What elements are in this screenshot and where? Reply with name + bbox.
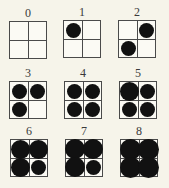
- cell-grid: [9, 81, 47, 119]
- cell-grid: [118, 20, 156, 58]
- pattern-label: 1: [63, 6, 101, 18]
- dot-tl: [12, 84, 27, 99]
- dot-bl: [122, 102, 137, 117]
- dot-bl: [12, 102, 27, 117]
- cell-grid: [65, 139, 103, 177]
- pattern-level-1: 1: [63, 6, 101, 58]
- pattern-level-0: 0: [9, 7, 47, 59]
- pattern-level-4: 4: [64, 67, 102, 119]
- pattern-level-8: 8: [120, 125, 158, 177]
- dot-br: [31, 160, 46, 175]
- pattern-label: 8: [120, 125, 158, 137]
- pattern-label: 0: [9, 7, 47, 19]
- dot-bl: [67, 102, 82, 117]
- pattern-label: 5: [119, 67, 157, 79]
- dot-br: [85, 102, 100, 117]
- dot-tl: [65, 139, 85, 159]
- dot-tr: [139, 23, 154, 38]
- dot-tr: [30, 84, 45, 99]
- cell-grid: [64, 81, 102, 119]
- dot-tr: [29, 140, 48, 159]
- dot-tr: [85, 84, 100, 99]
- dot-bl: [121, 41, 136, 56]
- cell-grid: [63, 20, 101, 58]
- pattern-label: 4: [64, 67, 102, 79]
- pattern-label: 3: [9, 67, 47, 79]
- pattern-label: 7: [65, 125, 103, 137]
- dot-tr: [83, 139, 103, 159]
- pattern-level-7: 7: [65, 125, 103, 177]
- pattern-label: 2: [118, 6, 156, 18]
- cell-grid: [119, 81, 157, 119]
- pattern-label: 6: [10, 125, 48, 137]
- dot-tl: [11, 140, 30, 159]
- dot-tl: [67, 84, 82, 99]
- pattern-level-5: 5: [119, 67, 157, 119]
- dot-tl: [120, 82, 139, 101]
- dot-bl: [11, 158, 30, 177]
- pattern-level-2: 2: [118, 6, 156, 58]
- dot-tr: [140, 84, 155, 99]
- dot-bl: [65, 157, 85, 177]
- dot-br: [86, 160, 101, 175]
- dot-br: [138, 157, 159, 178]
- dot-br: [140, 102, 155, 117]
- pattern-level-3: 3: [9, 67, 47, 119]
- cell-grid: [120, 139, 158, 177]
- cell-grid: [9, 21, 47, 59]
- dot-tl: [66, 23, 81, 38]
- cell-grid: [10, 139, 48, 177]
- pattern-level-6: 6: [10, 125, 48, 177]
